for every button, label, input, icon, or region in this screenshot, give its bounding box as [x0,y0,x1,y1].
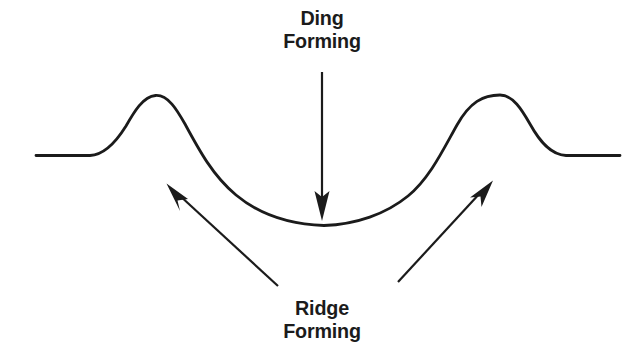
ridge-forming-label: Ridge Forming [0,296,644,342]
ridge-arrow-right [398,181,493,283]
ridge-arrow-right-head [470,181,493,208]
ridge-arrow-left-shaft [178,194,278,286]
ridge-label-line1: Ridge [19,296,624,319]
ridge-arrow-left [167,184,279,287]
ding-label-line2: Forming [19,29,624,52]
ridge-label-line2: Forming [19,319,624,342]
ridge-arrow-right-shaft [398,192,481,282]
ding-label-line1: Ding [19,6,624,29]
ridge-arrow-left-head [167,184,189,212]
surface-profile-curve [36,95,620,226]
ding-arrow [315,72,330,221]
ding-ridge-forming-diagram: Ding Forming Ridge Forming [0,0,644,356]
ding-forming-label: Ding Forming [0,6,644,52]
